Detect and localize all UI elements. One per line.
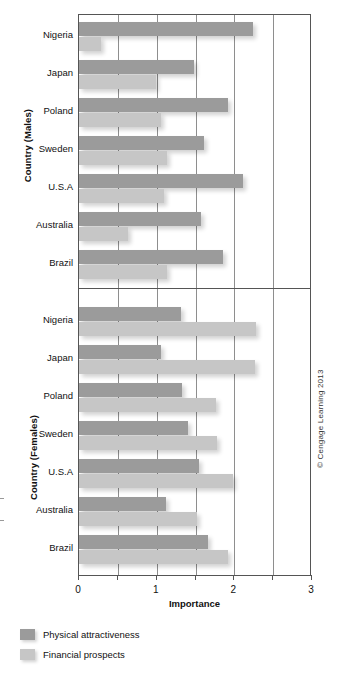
x-axis-tick-label: 0 <box>64 584 92 595</box>
category-row <box>79 170 310 208</box>
credit-line: © Cengage Learning 2013 <box>316 348 325 468</box>
chart-legend: Physical attractivenessFinancial prospec… <box>20 624 270 664</box>
category-label: Nigeria <box>1 29 73 40</box>
bar-financial-prospects <box>79 474 233 488</box>
category-row <box>79 341 310 379</box>
category-row <box>79 417 310 455</box>
bar-physical-attractiveness <box>79 307 181 321</box>
plot-panel-females <box>78 288 311 576</box>
bar-financial-prospects <box>79 398 216 412</box>
bar-physical-attractiveness <box>79 136 204 150</box>
category-row <box>79 379 310 417</box>
category-label: U.S.A <box>1 466 73 477</box>
y-axis-title-females: Country (Females) <box>28 403 39 513</box>
legend-item: Physical attractiveness <box>20 624 270 644</box>
x-axis-tick <box>117 575 118 580</box>
category-row <box>79 493 310 531</box>
category-label: Australia <box>1 504 73 515</box>
category-label: Sweden <box>1 143 73 154</box>
category-row <box>79 531 310 569</box>
bar-physical-attractiveness <box>79 459 199 473</box>
bar-financial-prospects <box>79 37 101 51</box>
bar-chart-figure: Country (Males) Country (Females) 0123 I… <box>0 0 344 673</box>
x-axis-tick-label: 2 <box>219 584 247 595</box>
bar-financial-prospects <box>79 113 161 127</box>
bar-physical-attractiveness <box>79 98 228 112</box>
x-axis-tick <box>311 575 312 580</box>
category-label: Poland <box>1 105 73 116</box>
legend-item: Financial prospects <box>20 644 270 664</box>
edge-tick <box>0 520 4 521</box>
category-label: Australia <box>1 219 73 230</box>
bar-financial-prospects <box>79 75 156 89</box>
bar-physical-attractiveness <box>79 535 208 549</box>
category-label: Brazil <box>1 257 73 268</box>
bar-financial-prospects <box>79 436 217 450</box>
bar-physical-attractiveness <box>79 497 166 511</box>
bar-physical-attractiveness <box>79 250 223 264</box>
x-axis-tick <box>233 575 234 580</box>
legend-swatch-icon <box>20 629 35 640</box>
x-axis-tick <box>156 575 157 580</box>
edge-tick <box>0 498 4 499</box>
x-axis: 0123 <box>78 576 311 577</box>
category-row <box>79 94 310 132</box>
x-axis-tick-label: 1 <box>142 584 170 595</box>
bar-financial-prospects <box>79 322 256 336</box>
x-axis-tick <box>195 575 196 580</box>
category-label: Poland <box>1 390 73 401</box>
bar-physical-attractiveness <box>79 22 253 36</box>
bar-financial-prospects <box>79 189 164 203</box>
legend-swatch-icon <box>20 649 35 660</box>
category-row <box>79 455 310 493</box>
bar-financial-prospects <box>79 265 167 279</box>
bar-financial-prospects <box>79 151 167 165</box>
category-row <box>79 132 310 170</box>
category-label: U.S.A <box>1 181 73 192</box>
bar-financial-prospects <box>79 360 255 374</box>
category-label: Japan <box>1 352 73 363</box>
category-row <box>79 303 310 341</box>
category-row <box>79 246 310 284</box>
bar-physical-attractiveness <box>79 212 201 226</box>
x-axis-tick <box>272 575 273 580</box>
category-row <box>79 18 310 56</box>
category-label: Nigeria <box>1 314 73 325</box>
bar-physical-attractiveness <box>79 174 243 188</box>
bar-physical-attractiveness <box>79 421 188 435</box>
category-label: Brazil <box>1 542 73 553</box>
x-axis-title: Importance <box>78 598 311 609</box>
x-axis-tick <box>78 575 79 580</box>
bar-financial-prospects <box>79 227 128 241</box>
x-axis-tick-label: 3 <box>297 584 325 595</box>
bar-financial-prospects <box>79 512 197 526</box>
bar-physical-attractiveness <box>79 383 182 397</box>
bar-financial-prospects <box>79 550 228 564</box>
category-label: Japan <box>1 67 73 78</box>
legend-label: Physical attractiveness <box>43 629 140 640</box>
legend-label: Financial prospects <box>43 649 125 660</box>
category-row <box>79 208 310 246</box>
category-label: Sweden <box>1 428 73 439</box>
bar-physical-attractiveness <box>79 345 161 359</box>
plot-panel-males <box>78 14 311 288</box>
bar-physical-attractiveness <box>79 60 194 74</box>
category-row <box>79 56 310 94</box>
